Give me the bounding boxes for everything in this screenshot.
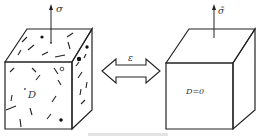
- strain-label: ε: [128, 53, 133, 63]
- voids: [24, 35, 89, 121]
- damage-equivalence-diagram: σ D ε σ̃ D=0: [0, 0, 259, 139]
- damaged-cube: [5, 29, 92, 129]
- stress-label: σ: [56, 3, 64, 14]
- caption: [88, 133, 168, 136]
- undamaged-cube: [166, 29, 255, 129]
- effective-stress-label: σ̃: [218, 6, 225, 16]
- defects: [6, 33, 87, 127]
- damage-label: D: [27, 89, 36, 100]
- zero-damage-label: D=0: [185, 87, 204, 96]
